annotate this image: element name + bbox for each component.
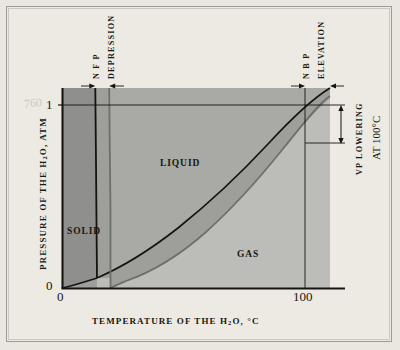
elevation-arrow-head [330,84,336,89]
depression-annotation-label: DEPRESSION [107,15,116,79]
gas-region-label: GAS [237,249,259,259]
vp-lowering-arrow-up [338,105,343,111]
nbp-arrow-head [299,84,305,89]
nbp-annotation-label: N B P [302,53,311,79]
solid-region-fill [62,88,97,288]
elevation-annotation-label: ELEVATION [317,21,326,79]
x-axis-title: TEMPERATURE OF THE H2O, °C [92,316,260,326]
nfp-arrow-head [89,84,95,89]
y-axis-title: PRESSURE OF THE H2O, ATM [38,117,48,270]
y-tick-label-0: 0 [46,278,53,294]
liquid-region-label: LIQUID [160,158,200,168]
depression-arrow-head [109,84,115,89]
x-tick-label-100: 100 [293,289,313,305]
x-tick-label-0: 0 [57,289,64,305]
vp-lowering-label-line1: VP LOWERING [355,102,364,175]
x-axis-title-pre: TEMPERATURE OF THE H [92,316,228,326]
pencil-annotation: 760 [23,95,42,112]
solid-region-label: SOLID [67,226,101,236]
vp-lowering-label-line2: AT 100°C [370,116,382,160]
y-axis-title-post: O, ATM [38,117,48,155]
phase-diagram-figure: 760 1 0 0 100 PRESSURE OF THE H2O, ATM T… [0,0,400,350]
nfp-annotation-label: N F P [92,53,101,79]
y-tick-label-1: 1 [46,97,53,113]
x-axis-title-post: O, °C [232,316,259,326]
y-axis-title-sub: 2 [41,155,48,159]
y-axis-title-pre: PRESSURE OF THE H [38,160,48,270]
